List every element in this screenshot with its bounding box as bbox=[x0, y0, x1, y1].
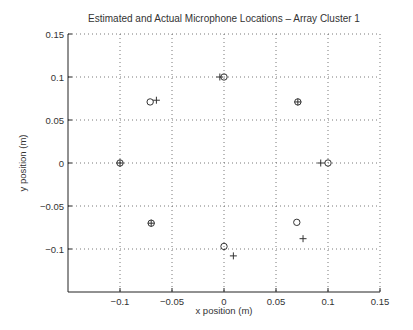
y-tick-label: −0.05 bbox=[40, 201, 64, 212]
tick-labels: −0.1−0.0500.050.10.150.150.10.050−0.05−0… bbox=[40, 29, 389, 308]
scatter-plot: −0.1−0.0500.050.10.150.150.10.050−0.05−0… bbox=[0, 0, 413, 330]
circle-marker-icon bbox=[294, 219, 300, 225]
x-axis-label: x position (m) bbox=[68, 305, 380, 316]
circle-marker-icon bbox=[147, 99, 153, 105]
y-tick-label: 0.05 bbox=[46, 115, 65, 126]
y-tick-label: 0.1 bbox=[51, 72, 64, 83]
grid-lines bbox=[68, 34, 380, 292]
y-tick-label: 0.15 bbox=[46, 29, 65, 40]
y-tick-label: −0.1 bbox=[45, 244, 64, 255]
y-tick-label: 0 bbox=[59, 158, 64, 169]
y-axis-label: y position (m) bbox=[17, 134, 28, 191]
